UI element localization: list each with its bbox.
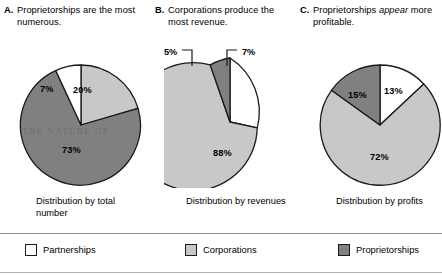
- panel-c-heading: C. Proprietorships appear more profitabl…: [300, 5, 440, 28]
- pie-a-label-partnerships: 7%: [40, 84, 53, 94]
- legend-divider-top: [0, 233, 442, 234]
- legend-item-corporations: Corporations: [185, 244, 257, 256]
- pie-chart-c: [318, 63, 442, 187]
- panel-b-letter: B.: [155, 5, 164, 17]
- pie-c-label-partnerships: 13%: [384, 86, 403, 96]
- legend-label-corporations: Corporations: [203, 244, 257, 256]
- legend-swatch-corporations: [185, 244, 197, 256]
- pie-a-label-proprietorships: 73%: [62, 145, 81, 155]
- pie-c-label-proprietorships: 15%: [348, 90, 367, 100]
- pie-a-svg: [19, 63, 143, 187]
- legend-label-partnerships: Partnerships: [43, 244, 96, 256]
- pie-b-label-proprietorships: 5%: [164, 47, 177, 57]
- legend-swatch-partnerships: [25, 244, 37, 256]
- pie-chart-a: [19, 63, 143, 187]
- legend-item-proprietorships: Proprietorships: [338, 244, 419, 256]
- pie-b-leader-proprietorships: [182, 50, 192, 66]
- legend-divider-bottom: [0, 272, 442, 273]
- panel-b-heading: B. Corporations produce the most revenue…: [155, 5, 297, 28]
- panel-a-caption: Distribution by total number: [36, 196, 146, 219]
- panel-a-heading: A. Proprietorships are the most numerous…: [4, 5, 144, 28]
- panel-c-heading-text: Proprietorships appear more profitable.: [313, 5, 440, 28]
- panel-b-caption: Distribution by revenues: [186, 196, 296, 208]
- legend-item-partnerships: Partnerships: [25, 244, 96, 256]
- panel-c-letter: C.: [300, 5, 309, 17]
- panel-a-heading-pre: Proprietorships are the: [17, 5, 115, 15]
- legend-swatch-proprietorships: [338, 244, 350, 256]
- three-pie-chart-figure: A. Proprietorships are the most numerous…: [0, 0, 442, 275]
- pie-b-label-corporations: 88%: [213, 148, 232, 158]
- panel-a-letter: A.: [4, 5, 13, 17]
- panel-c-heading-pre: Proprietorships: [313, 5, 379, 15]
- pie-b-label-partnerships: 7%: [242, 47, 255, 57]
- panel-b-heading-pre: Corporations produce the: [168, 5, 274, 15]
- figure-legend: Partnerships Corporations Proprietorship…: [0, 244, 442, 266]
- panel-c-heading-emphasis: appear: [379, 5, 408, 15]
- panel-b-heading-post: most revenue.: [168, 17, 228, 27]
- panel-a-heading-text: Proprietorships are the most numerous.: [17, 5, 144, 28]
- panel-c-caption: Distribution by profits: [336, 196, 441, 208]
- pie-a-label-corporations: 20%: [73, 85, 92, 95]
- pie-c-svg: [318, 63, 442, 187]
- pie-c-label-corporations: 72%: [370, 152, 389, 162]
- legend-label-proprietorships: Proprietorships: [356, 244, 419, 256]
- panel-b-heading-text: Corporations produce the most revenue.: [168, 5, 297, 28]
- pie-b-leader-partnerships: [227, 50, 237, 66]
